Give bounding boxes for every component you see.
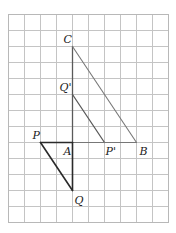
geometry-diagram: CQ'PAP'BQ: [0, 0, 176, 233]
point-label-q: Q: [75, 194, 84, 207]
point-label-c: C: [64, 33, 73, 46]
point-label-qp: Q': [60, 81, 72, 94]
point-label-p: P: [32, 129, 41, 142]
point-label-a: A: [63, 145, 72, 158]
point-label-pp: P': [105, 145, 116, 158]
point-label-b: B: [139, 145, 148, 158]
